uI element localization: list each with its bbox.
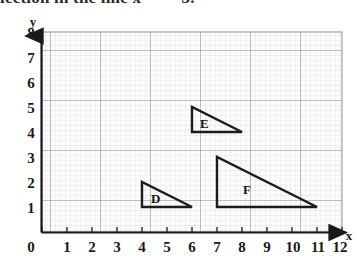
x-tick-1: 1 bbox=[63, 239, 71, 255]
x-tick-5: 5 bbox=[163, 239, 171, 255]
y-tick-7: 7 bbox=[27, 50, 35, 66]
x-tick-6: 6 bbox=[188, 239, 196, 255]
coordinate-grid-figure: y x 8 7 6 5 4 3 2 1 0 1 2 3 4 5 6 7 8 9 … bbox=[0, 0, 357, 262]
x-tick-4: 4 bbox=[138, 239, 146, 255]
x-tick-9: 9 bbox=[263, 239, 271, 255]
x-tick-10: 10 bbox=[286, 239, 301, 255]
y-tick-6: 6 bbox=[27, 75, 35, 91]
y-tick-8: 8 bbox=[27, 25, 35, 41]
y-tick-3: 3 bbox=[27, 150, 35, 166]
y-tick-5: 5 bbox=[27, 100, 35, 116]
triangle-D-label: D bbox=[151, 191, 160, 206]
x-tick-8: 8 bbox=[238, 239, 246, 255]
y-axis-tick-labels: 8 7 6 5 4 3 2 1 0 bbox=[27, 25, 35, 255]
triangle-E-label: E bbox=[200, 116, 209, 131]
figure-stage: lection in the line x =3. bbox=[0, 0, 357, 262]
y-tick-0: 0 bbox=[27, 239, 35, 255]
x-axis-tick-labels: 1 2 3 4 5 6 7 8 9 10 11 12 bbox=[63, 239, 347, 255]
x-tick-2: 2 bbox=[88, 239, 96, 255]
y-tick-2: 2 bbox=[27, 175, 35, 191]
x-tick-7: 7 bbox=[213, 239, 221, 255]
x-tick-3: 3 bbox=[113, 239, 121, 255]
x-tick-12: 12 bbox=[333, 239, 348, 255]
y-tick-4: 4 bbox=[27, 125, 35, 141]
y-tick-1: 1 bbox=[27, 200, 35, 216]
x-tick-11: 11 bbox=[311, 239, 325, 255]
triangle-F-label: F bbox=[243, 182, 251, 197]
